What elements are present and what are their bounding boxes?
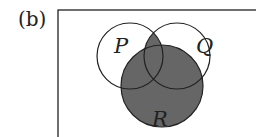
set-r-label: R — [151, 107, 168, 131]
set-p-label: P — [113, 34, 129, 58]
venn-diagram: (b) P Q R — [0, 0, 256, 137]
figure-tag: (b) — [18, 7, 46, 31]
set-q-label: Q — [196, 34, 213, 58]
